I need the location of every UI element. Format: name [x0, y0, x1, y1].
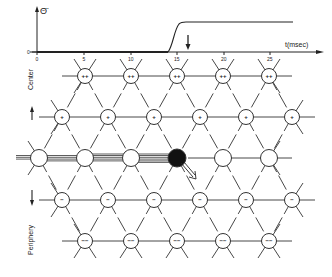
node-sign: ++ — [265, 73, 273, 79]
x-tick-5: 5 — [83, 56, 86, 62]
lattice-node: −− — [216, 234, 231, 249]
node-sign: ++ — [81, 73, 89, 79]
lattice-node: + — [55, 110, 70, 125]
lattice-node: + — [147, 110, 162, 125]
node-sign: + — [60, 114, 64, 120]
x-tick-20: 20 — [221, 56, 227, 62]
periphery-label: Periphery — [27, 225, 35, 255]
node-sign: − — [60, 197, 64, 203]
node-sign: − — [244, 197, 248, 203]
node-sign: + — [106, 114, 110, 120]
lattice-node: − — [101, 193, 116, 208]
lattice-node — [77, 150, 94, 167]
lattice-node: −− — [78, 234, 93, 249]
node-sign: −− — [127, 238, 135, 244]
node-sign: − — [290, 197, 294, 203]
lattice-node: − — [239, 193, 254, 208]
timing-graph — [30, 6, 324, 55]
node-sign: − — [198, 197, 202, 203]
down-arrow-icon — [30, 200, 34, 206]
center-label: Center — [27, 68, 34, 90]
lattice-node: −− — [262, 234, 277, 249]
response-curve — [168, 22, 293, 52]
lattice-node: − — [55, 193, 70, 208]
graph-labels: Θ̈ 0 t(msec) 0 5 10 15 20 25 — [27, 6, 308, 62]
node-sign: + — [152, 114, 156, 120]
node-sign: + — [290, 114, 294, 120]
lattice-node: + — [193, 110, 208, 125]
up-arrow-icon — [30, 106, 34, 112]
node-sign: + — [244, 114, 248, 120]
node-sign: ++ — [173, 73, 181, 79]
x-tick-15: 15 — [174, 56, 180, 62]
lattice-node — [123, 150, 140, 167]
lattice-node: − — [285, 193, 300, 208]
x-axis-label: t(msec) — [285, 41, 308, 49]
lattice-node: − — [147, 193, 162, 208]
y-zero-label: 0 — [27, 49, 30, 55]
x-axis-arrow-icon — [316, 50, 324, 54]
y-axis-label: Θ̈ — [40, 6, 49, 16]
lattice-node: ++ — [170, 69, 185, 84]
node-sign: −− — [265, 238, 273, 244]
lattice-node: ++ — [216, 69, 231, 84]
lattice-node: −− — [124, 234, 139, 249]
node-sign: ++ — [219, 73, 227, 79]
x-tick-10: 10 — [128, 56, 134, 62]
lattice-node: ++ — [124, 69, 139, 84]
hexagonal-grid-diagram: Θ̈ 0 t(msec) 0 5 10 15 20 25 Center Peri… — [0, 0, 332, 277]
lattice-node: + — [101, 110, 116, 125]
stimulus-arrow-icon — [186, 44, 191, 50]
node-sign: − — [106, 197, 110, 203]
x-tick-25: 25 — [267, 56, 273, 62]
node-sign: −− — [81, 238, 89, 244]
node-sign: + — [198, 114, 202, 120]
lattice-node: ++ — [262, 69, 277, 84]
y-axis-arrow-icon — [35, 6, 39, 12]
lattice-node — [31, 150, 48, 167]
lattice-node: − — [193, 193, 208, 208]
node-sign: ++ — [127, 73, 135, 79]
node-sign: −− — [219, 238, 227, 244]
node-sign: − — [152, 197, 156, 203]
lattice-node: ++ — [78, 69, 93, 84]
lattice-node: + — [285, 110, 300, 125]
lattice-node: −− — [170, 234, 185, 249]
x-tick-0: 0 — [36, 56, 39, 62]
node-sign: −− — [173, 238, 181, 244]
lattice-node — [215, 150, 232, 167]
lattice-node: + — [239, 110, 254, 125]
lattice-node — [261, 150, 278, 167]
nodes: ++++++++++++++++−−−−−−−−−−−−−−−− — [31, 69, 300, 249]
active-node — [168, 149, 186, 167]
